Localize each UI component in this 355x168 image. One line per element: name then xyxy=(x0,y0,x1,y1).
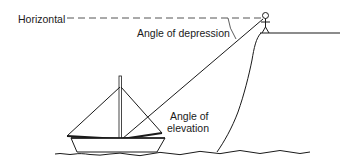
horizontal-label: Horizontal xyxy=(18,13,65,25)
sailboat xyxy=(67,76,165,152)
angle-of-elevation-label-line2: elevation xyxy=(167,122,209,134)
angle-of-elevation-label-line1: Angle of xyxy=(170,110,209,122)
hull xyxy=(71,138,165,152)
diagram-canvas: Horizontal Angle of depression Angle of … xyxy=(0,0,355,168)
angle-of-depression-label: Angle of depression xyxy=(137,27,230,39)
cliff-face xyxy=(217,33,261,152)
observer-figure xyxy=(261,13,270,34)
diagram-drawing xyxy=(0,0,355,168)
mast xyxy=(119,76,121,140)
